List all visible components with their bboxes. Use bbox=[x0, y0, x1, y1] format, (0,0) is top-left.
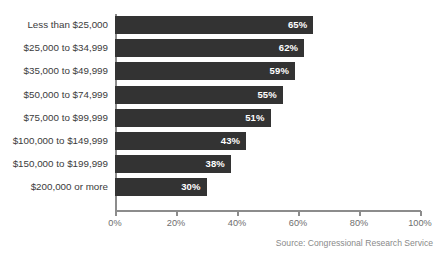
category-label: $75,000 to $99,999 bbox=[24, 109, 108, 127]
bar-row: 65% bbox=[115, 16, 420, 34]
bar-value-label: 30% bbox=[181, 178, 200, 196]
bar-row: 59% bbox=[115, 62, 420, 80]
x-tick-label: 0% bbox=[90, 218, 140, 228]
x-tick-mark bbox=[359, 211, 361, 216]
category-label: $100,000 to $149,999 bbox=[13, 132, 108, 150]
x-tick-label: 40% bbox=[212, 218, 262, 228]
plot-area: 65%62%59%55%51%43%38%30% bbox=[115, 14, 420, 211]
bar: 43% bbox=[115, 132, 246, 150]
category-label: $35,000 to $49,999 bbox=[24, 62, 108, 80]
bar-row: 30% bbox=[115, 178, 420, 196]
bar-value-label: 62% bbox=[279, 39, 298, 57]
bar-value-label: 55% bbox=[257, 86, 276, 104]
x-tick-mark bbox=[115, 211, 117, 216]
category-label: Less than $25,000 bbox=[27, 16, 108, 34]
bar-row: 43% bbox=[115, 132, 420, 150]
x-tick-mark bbox=[237, 211, 239, 216]
bar: 51% bbox=[115, 109, 271, 127]
bar-value-label: 38% bbox=[206, 155, 225, 173]
x-tick-label: 20% bbox=[151, 218, 201, 228]
category-label: $25,000 to $34,999 bbox=[24, 39, 108, 57]
bar-value-label: 59% bbox=[270, 62, 289, 80]
x-tick-label: 100% bbox=[395, 218, 442, 228]
bar-row: 62% bbox=[115, 39, 420, 57]
x-tick-mark bbox=[420, 211, 422, 216]
bar: 65% bbox=[115, 16, 313, 34]
x-tick-mark bbox=[176, 211, 178, 216]
bar: 59% bbox=[115, 62, 295, 80]
bar-value-label: 43% bbox=[221, 132, 240, 150]
x-tick-label: 60% bbox=[273, 218, 323, 228]
source-note: Source: Congressional Research Service bbox=[276, 238, 433, 248]
bar: 55% bbox=[115, 86, 283, 104]
category-label: $200,000 or more bbox=[31, 178, 108, 196]
bar-row: 55% bbox=[115, 86, 420, 104]
bar: 30% bbox=[115, 178, 207, 196]
category-label: $50,000 to $74,999 bbox=[24, 86, 108, 104]
x-tick-mark bbox=[298, 211, 300, 216]
bar-value-label: 65% bbox=[288, 16, 307, 34]
bar-row: 51% bbox=[115, 109, 420, 127]
bar-row: 38% bbox=[115, 155, 420, 173]
bar: 38% bbox=[115, 155, 231, 173]
bar: 62% bbox=[115, 39, 304, 57]
category-label: $150,000 to $199,999 bbox=[13, 155, 108, 173]
chart-figure: Less than $25,000$25,000 to $34,999$35,0… bbox=[0, 0, 442, 257]
bar-value-label: 51% bbox=[245, 109, 264, 127]
x-tick-label: 80% bbox=[334, 218, 384, 228]
